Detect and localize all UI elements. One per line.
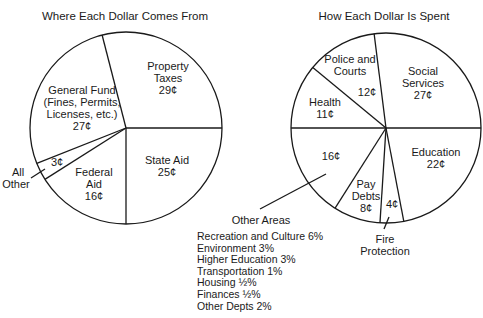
other-areas-breakdown: Recreation and Culture 6% Environment 3%… [197, 231, 323, 312]
breakdown-item: Other Depts 2% [197, 301, 323, 313]
label-fire-protection: Fire [376, 233, 395, 245]
svg-text:Other: Other [2, 178, 30, 190]
svg-text:Taxes: Taxes [154, 72, 183, 84]
left-chart-title: Where Each Dollar Comes From [42, 10, 208, 22]
svg-text:Services: Services [402, 77, 445, 89]
label-property-taxes: Property [147, 60, 189, 72]
left-pie [30, 32, 222, 224]
svg-text:27¢: 27¢ [73, 120, 91, 132]
label-federal-aid: Federal [75, 166, 112, 178]
svg-text:Protection: Protection [360, 245, 410, 257]
svg-text:11¢: 11¢ [316, 108, 334, 120]
label-fire-value: 4¢ [386, 198, 398, 210]
svg-text:8¢: 8¢ [360, 202, 372, 214]
label-all-other: All [12, 166, 24, 178]
right-chart-title: How Each Dollar Is Spent [318, 10, 450, 22]
svg-text:29¢: 29¢ [159, 84, 177, 96]
label-police-courts: Police and [324, 53, 375, 65]
label-all-other-value: 3¢ [51, 156, 63, 168]
svg-text:16¢: 16¢ [85, 190, 103, 202]
label-state-aid: State Aid [145, 154, 189, 166]
label-general-fund: General Fund [48, 84, 115, 96]
label-other-areas-value: 16¢ [322, 150, 340, 162]
svg-text:Aid: Aid [86, 178, 102, 190]
svg-text:22¢: 22¢ [427, 158, 445, 170]
label-health: Health [309, 96, 341, 108]
slice-divider [374, 34, 386, 128]
breakdown-item: Finances ½% [197, 289, 323, 301]
label-education: Education [412, 146, 461, 158]
svg-text:27¢: 27¢ [414, 89, 432, 101]
breakdown-item: Recreation and Culture 6% [197, 231, 323, 243]
other-areas-title: Other Areas [232, 214, 291, 226]
label-social-services: Social [408, 65, 438, 77]
svg-text:Courts: Courts [334, 65, 367, 77]
svg-text:12¢: 12¢ [358, 86, 376, 98]
svg-text:Debts: Debts [352, 190, 381, 202]
svg-text:(Fines, Permits,: (Fines, Permits, [43, 96, 120, 108]
label-pay-debts: Pay [357, 178, 376, 190]
svg-text:25¢: 25¢ [158, 166, 176, 178]
svg-text:Licenses, etc.): Licenses, etc.) [47, 108, 118, 120]
